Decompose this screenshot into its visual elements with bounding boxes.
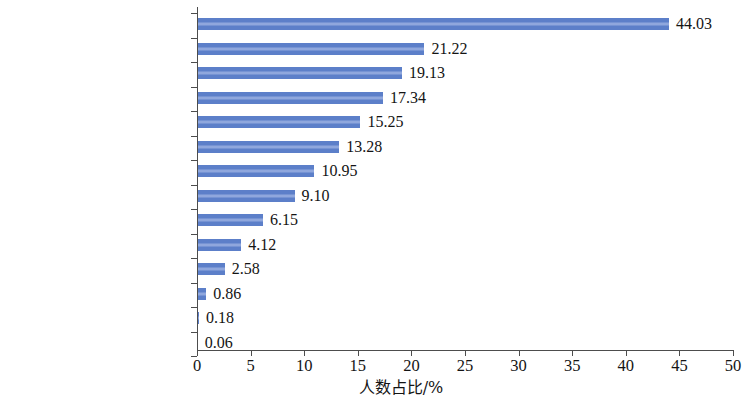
value-label: 21.22 (431, 39, 467, 59)
bar (197, 214, 263, 226)
x-axis-title: 人数占比/% (0, 374, 742, 397)
bar-row: 应用/开发研究21.22 (197, 37, 733, 62)
x-axis-tick-label: 45 (671, 356, 688, 376)
bar (197, 239, 241, 251)
value-label: 10.95 (321, 161, 357, 181)
bar (197, 288, 206, 300)
bar (197, 92, 383, 104)
bar-row: 设计19.13 (197, 61, 733, 86)
bar-row: 中介服务0.86 (197, 282, 733, 307)
x-axis-tick-label: 30 (510, 356, 527, 376)
value-label: 4.12 (248, 235, 276, 255)
bar (197, 67, 402, 79)
value-label: 19.13 (409, 63, 445, 83)
bar-row: 技术推广10.95 (197, 159, 733, 184)
value-label: 0.18 (206, 308, 234, 328)
plot-area: 生产运行/工程应用44.03应用/开发研究21.22设计19.13一般行政管理1… (197, 7, 733, 350)
bar-row: 基础研究15.25 (197, 110, 733, 135)
value-label: 2.58 (232, 259, 260, 279)
value-label: 0.86 (213, 284, 241, 304)
value-label: 17.34 (390, 88, 426, 108)
bar-row: 科学普及4.12 (197, 233, 733, 258)
bar-row: 科技管理13.28 (197, 135, 733, 160)
x-axis-tick-label: 50 (725, 356, 742, 376)
x-axis-tick-label: 0 (193, 356, 201, 376)
value-label: 15.25 (367, 112, 403, 132)
value-label: 9.10 (302, 186, 330, 206)
x-axis-tick-label: 35 (564, 356, 581, 376)
bar-row: 一般行政管理17.34 (197, 86, 733, 111)
bar-row: 社科研究0.18 (197, 306, 733, 331)
bar (197, 263, 225, 275)
bar-row: 研究辅助/技术辅助9.10 (197, 184, 733, 209)
bar (197, 43, 424, 55)
x-axis-tick-label: 5 (246, 356, 254, 376)
bar-row: 生产运行/工程应用44.03 (197, 12, 733, 37)
y-axis-line (197, 7, 198, 351)
x-axis-tick-label: 15 (350, 356, 367, 376)
bar (197, 165, 314, 177)
bar (197, 141, 339, 153)
bar-chart: 生产运行/工程应用44.03应用/开发研究21.22设计19.13一般行政管理1… (0, 0, 742, 397)
bar (197, 190, 295, 202)
bar (197, 116, 360, 128)
x-axis-tick-label: 25 (457, 356, 474, 376)
bar (197, 18, 669, 30)
bar-row: 教学2.58 (197, 257, 733, 282)
value-label: 13.28 (346, 137, 382, 157)
value-label: 6.15 (270, 210, 298, 230)
x-axis-tick-label: 40 (618, 356, 635, 376)
x-axis-tick-label: 20 (403, 356, 420, 376)
bar-row: 其他6.15 (197, 208, 733, 233)
value-label: 44.03 (676, 14, 712, 34)
x-axis-tick-label: 10 (296, 356, 313, 376)
